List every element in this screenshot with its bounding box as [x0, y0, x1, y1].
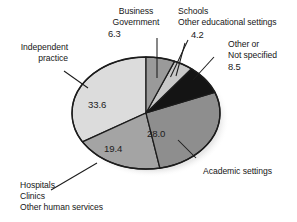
callout-hospitals-line3: Other human services [20, 202, 103, 213]
callout-hospitals-line2: Clinics [20, 191, 103, 202]
slice-value-academic: 28.0 [147, 128, 165, 139]
callout-business-government-line2: Government [104, 17, 168, 28]
callout-other-not-specified-line1: Other or [228, 39, 277, 50]
callout-hospitals: Hospitals Clinics Other human services [20, 180, 103, 214]
callout-schools: Schools Other educational settings [178, 6, 277, 28]
callout-business-government: Business Government [104, 6, 168, 28]
callout-schools-line1: Schools [178, 6, 277, 17]
callout-academic-settings: Academic settings [203, 166, 272, 177]
callout-schools-line2: Other educational settings [178, 17, 277, 28]
pie-chart-figure: Business Government 6.3 Schools Other ed… [0, 0, 297, 222]
callout-schools-value: 4.2 [191, 30, 204, 40]
callout-hospitals-line1: Hospitals [20, 180, 103, 191]
callout-academic-settings-line1: Academic settings [203, 166, 272, 177]
slice-value-independent-practice: 33.6 [88, 99, 106, 110]
callout-other-not-specified-line2: Not specified [228, 50, 277, 61]
callout-independent-practice: Independent practice [8, 42, 68, 64]
callout-other-not-specified: Other or Not specified [228, 39, 277, 61]
slice-value-hospitals: 19.4 [104, 143, 122, 154]
callout-business-government-line1: Business [104, 6, 168, 17]
callout-independent-practice-line2: practice [8, 53, 68, 64]
callout-other-not-specified-value: 8.5 [228, 62, 241, 72]
leader-line-independent-practice [64, 71, 88, 88]
callout-business-government-value: 6.3 [108, 29, 121, 39]
callout-independent-practice-line1: Independent [8, 42, 68, 53]
